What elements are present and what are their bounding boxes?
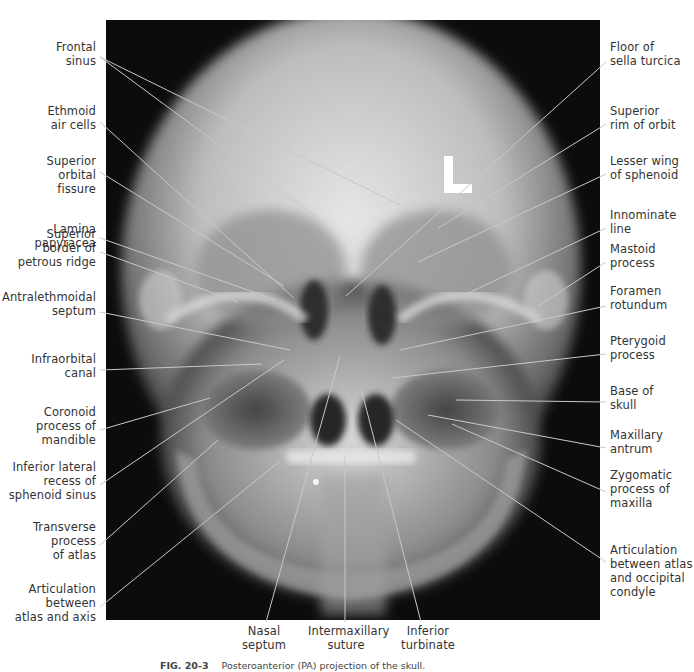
figure-caption: FIG. 20-3 Posteroanterior (PA) projectio…	[160, 660, 425, 671]
label-line: suture	[308, 638, 384, 652]
label-line: orbital	[47, 168, 96, 182]
label-inferior-turbinate: Inferiorturbinate	[400, 624, 456, 652]
label-intermaxillary-suture: Intermaxillarysuture	[308, 624, 384, 652]
label-antralethmoidal-septum: Antralethmoidalseptum	[2, 290, 96, 318]
figure-number: FIG. 20-3	[160, 660, 209, 671]
label-line: sinus	[56, 54, 96, 68]
label-base-of-skull: Base ofskull	[610, 384, 653, 412]
label-line: and occipital	[610, 571, 692, 585]
label-line: border of	[18, 241, 96, 255]
label-line: recess of	[9, 474, 96, 488]
label-mastoid-process: Mastoidprocess	[610, 242, 656, 270]
label-line: process of	[36, 419, 96, 433]
label-line: between atlas	[610, 557, 692, 571]
label-line: septum	[236, 638, 292, 652]
label-inferior-lateral-recess-sphenoid: Inferior lateralrecess ofsphenoid sinus	[9, 460, 96, 502]
label-line: Base of	[610, 384, 653, 398]
label-superior-border-petrous-ridge: Superiorborder ofpetrous ridge	[18, 227, 96, 269]
label-line: of sphenoid	[610, 168, 679, 182]
label-ethmoid-air-cells: Ethmoidair cells	[48, 104, 97, 132]
label-line: of atlas	[33, 548, 96, 562]
figure-caption-text: Posteroanterior (PA) projection of the s…	[222, 660, 426, 671]
label-articulation-atlas-occipital-condyle: Articulationbetween atlasand occipitalco…	[610, 543, 692, 599]
label-line: Lesser wing	[610, 154, 679, 168]
label-line: Mastoid	[610, 242, 656, 256]
label-line: Superior	[47, 154, 96, 168]
label-line: Foramen	[610, 284, 667, 298]
label-coronoid-process-mandible: Coronoidprocess ofmandible	[36, 405, 96, 447]
label-line: process of	[610, 482, 672, 496]
label-line: fissure	[47, 182, 96, 196]
label-line: Superior	[610, 104, 676, 118]
label-superior-orbital-fissure: Superiororbitalfissure	[47, 154, 96, 196]
skull-xray-illustration	[106, 20, 600, 620]
label-line: between	[15, 596, 96, 610]
label-line: Nasal	[236, 624, 292, 638]
label-frontal-sinus: Frontalsinus	[56, 40, 96, 68]
label-line: process	[610, 348, 666, 362]
label-line: mandible	[36, 433, 96, 447]
label-lesser-wing-sphenoid: Lesser wingof sphenoid	[610, 154, 679, 182]
label-line: canal	[31, 366, 96, 380]
label-floor-sella-turcica: Floor ofsella turcica	[610, 40, 681, 68]
label-line: Zygomatic	[610, 468, 672, 482]
label-line: process	[610, 256, 656, 270]
label-maxillary-antrum: Maxillaryantrum	[610, 428, 663, 456]
label-line: air cells	[48, 118, 97, 132]
label-articulation-atlas-axis: Articulationbetweenatlas and axis	[15, 582, 96, 624]
label-line: Transverse	[33, 520, 96, 534]
label-line: Articulation	[15, 582, 96, 596]
label-line: atlas and axis	[15, 610, 96, 624]
label-foramen-rotundum: Foramenrotundum	[610, 284, 667, 312]
label-line: Maxillary	[610, 428, 663, 442]
label-line: septum	[2, 304, 96, 318]
label-zygomatic-process-maxilla: Zygomaticprocess ofmaxilla	[610, 468, 672, 510]
label-transverse-process-atlas: Transverseprocessof atlas	[33, 520, 96, 562]
label-line: Intermaxillary	[308, 624, 384, 638]
label-line: process	[33, 534, 96, 548]
label-line: Antralethmoidal	[2, 290, 96, 304]
label-line: sella turcica	[610, 54, 681, 68]
label-line: Infraorbital	[31, 352, 96, 366]
label-line: Floor of	[610, 40, 681, 54]
label-line: rotundum	[610, 298, 667, 312]
label-pterygoid-process: Pterygoidprocess	[610, 334, 666, 362]
label-superior-rim-orbit: Superiorrim of orbit	[610, 104, 676, 132]
label-line: line	[610, 222, 676, 236]
label-infraorbital-canal: Infraorbitalcanal	[31, 352, 96, 380]
label-line: skull	[610, 398, 653, 412]
label-line: maxilla	[610, 496, 672, 510]
label-line: Ethmoid	[48, 104, 97, 118]
label-line: Inferior	[400, 624, 456, 638]
label-line: petrous ridge	[18, 255, 96, 269]
label-line: Inferior lateral	[9, 460, 96, 474]
label-line: Articulation	[610, 543, 692, 557]
label-line: Superior	[18, 227, 96, 241]
label-line: condyle	[610, 585, 692, 599]
label-line: antrum	[610, 442, 663, 456]
label-line: Pterygoid	[610, 334, 666, 348]
label-innominate-line: Innominateline	[610, 208, 676, 236]
label-line: Coronoid	[36, 405, 96, 419]
label-line: sphenoid sinus	[9, 488, 96, 502]
label-line: Innominate	[610, 208, 676, 222]
label-nasal-septum: Nasalseptum	[236, 624, 292, 652]
label-line: rim of orbit	[610, 118, 676, 132]
label-line: turbinate	[400, 638, 456, 652]
label-line: Frontal	[56, 40, 96, 54]
skull-radiograph	[106, 20, 600, 620]
